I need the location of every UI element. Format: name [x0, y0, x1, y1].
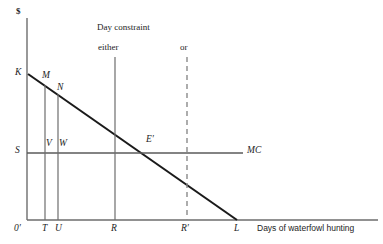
day-constraint-title: Day constraint	[97, 23, 150, 32]
x-tick-label-r-prime: R′	[181, 224, 189, 234]
x-tick-label-l: L	[234, 224, 239, 234]
economics-diagram-svg	[0, 0, 383, 244]
point-label-k: K	[15, 68, 21, 78]
day-constraint-either-label: either	[98, 43, 119, 52]
day-constraint-or-label: or	[180, 43, 188, 52]
point-label-v: V	[46, 139, 52, 149]
marginal-cost-label: MC	[247, 146, 261, 156]
point-label-s: S	[15, 146, 20, 156]
point-label-w: W	[59, 139, 67, 149]
point-label-n: N	[57, 83, 63, 93]
x-tick-label-r: R	[111, 224, 117, 234]
figure-canvas: $ K M N S V W E′ MC Day constraint eithe…	[0, 0, 383, 244]
x-axis-title: Days of waterfowl hunting	[257, 224, 354, 233]
point-label-e-prime: E′	[146, 135, 154, 145]
point-label-m: M	[42, 71, 50, 81]
x-tick-label-u: U	[55, 224, 62, 234]
x-tick-label-t: T	[42, 224, 47, 234]
x-tick-label-origin: 0′	[14, 224, 21, 234]
y-axis-unit-label: $	[16, 7, 21, 16]
